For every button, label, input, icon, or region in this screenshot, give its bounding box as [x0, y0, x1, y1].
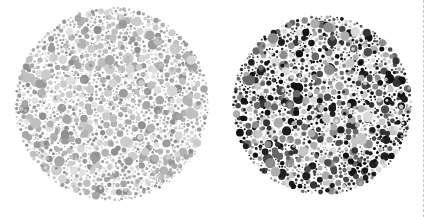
- figure-root: [0, 0, 428, 217]
- vertical-dashed-divider: [423, 0, 424, 217]
- right-plate-high-contrast: [0, 0, 428, 217]
